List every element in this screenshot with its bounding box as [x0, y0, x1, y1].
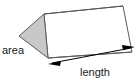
length-arrowhead-left	[48, 61, 61, 66]
area-label: area	[2, 45, 24, 56]
prism-drawing	[0, 0, 139, 82]
length-label: length	[80, 67, 110, 78]
prism-figure: area length	[0, 0, 139, 82]
